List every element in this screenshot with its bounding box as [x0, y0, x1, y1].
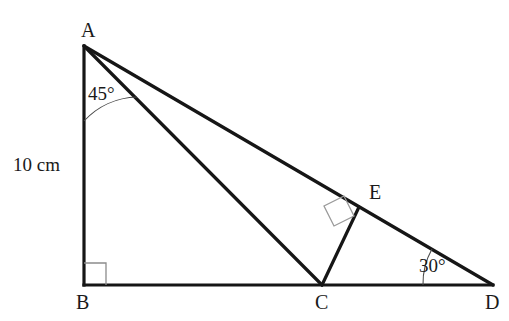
angle-label-45: 45°	[88, 84, 115, 103]
length-label-AB: 10 cm	[13, 155, 60, 174]
vertex-label-A: A	[81, 20, 95, 40]
vertex-label-B: B	[76, 292, 89, 312]
right-angle-at-B	[84, 263, 106, 285]
vertex-label-C: C	[315, 292, 328, 312]
vertex-label-E: E	[369, 182, 381, 202]
vertex-label-D: D	[485, 292, 499, 312]
geometry-diagram: A B C D E 45° 30° 10 cm	[0, 0, 509, 321]
angle-label-30: 30°	[419, 256, 446, 275]
segment-CE	[322, 207, 359, 285]
